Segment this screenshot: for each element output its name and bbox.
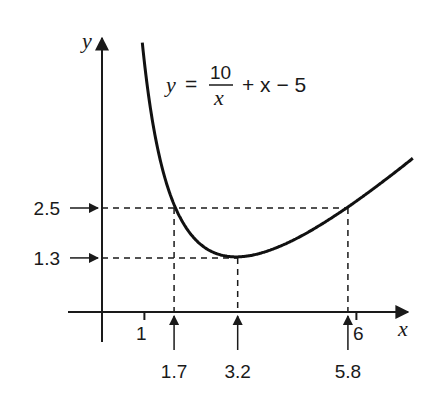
guide-lines xyxy=(102,208,348,312)
x-marker-label: 5.8 xyxy=(335,361,361,382)
y-axis-label: y xyxy=(80,28,92,53)
x-axis-label: x xyxy=(397,316,408,341)
equation-rest: + x − 5 xyxy=(242,73,306,96)
graph: y x 16 1.73.25.8 2.51.3 y = 10 x + x − 5 xyxy=(0,0,435,408)
equation-label: y = 10 x + x − 5 xyxy=(164,62,306,110)
y-value-markers: 2.51.3 xyxy=(34,198,98,269)
x-value-markers: 1.73.25.8 xyxy=(161,316,361,382)
equation-equals: = xyxy=(185,72,197,95)
y-marker-label: 1.3 xyxy=(34,248,60,269)
x-marker-label: 3.2 xyxy=(224,361,250,382)
equation-denominator: x xyxy=(213,85,224,110)
y-marker-label: 2.5 xyxy=(34,198,60,219)
x-ticks: 16 xyxy=(136,312,364,344)
x-marker-label: 1.7 xyxy=(161,361,187,382)
x-tick-label: 1 xyxy=(136,323,147,344)
equation-lhs: y xyxy=(164,72,176,97)
equation-numerator: 10 xyxy=(210,62,231,83)
x-tick-label: 6 xyxy=(353,323,364,344)
